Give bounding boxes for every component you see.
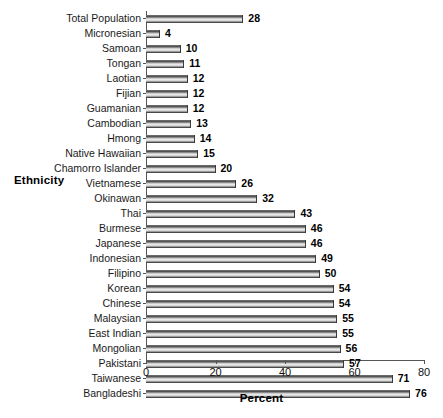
bar-value-label: 11 xyxy=(189,56,200,71)
bar xyxy=(146,150,198,158)
bar xyxy=(146,180,236,188)
bar-value-label: 10 xyxy=(186,41,198,56)
bar xyxy=(146,345,341,353)
x-axis-tick-label: 80 xyxy=(418,366,430,378)
bar xyxy=(146,15,243,23)
x-axis-tick xyxy=(216,360,217,364)
bar-row: Micronesian4 xyxy=(146,26,424,41)
bar-value-label: 54 xyxy=(339,296,351,311)
bar-value-label: 12 xyxy=(193,101,205,116)
category-label: Native Hawaiian xyxy=(65,146,141,161)
category-label: Thai xyxy=(121,206,141,221)
bar-row: Vietnamese26 xyxy=(146,176,424,191)
bar-value-label: 32 xyxy=(262,191,274,206)
bar-value-label: 20 xyxy=(221,161,233,176)
bar-value-label: 12 xyxy=(193,71,205,86)
y-axis-title: Ethnicity xyxy=(14,174,64,186)
bar xyxy=(146,195,257,203)
category-label: Micronesian xyxy=(84,26,141,41)
category-label: Korean xyxy=(107,281,141,296)
category-label: Japanese xyxy=(95,236,141,251)
x-axis-tick-label: 20 xyxy=(209,366,221,378)
bar-row: East Indian55 xyxy=(146,326,424,341)
category-label: Filipino xyxy=(108,266,141,281)
bar-value-label: 26 xyxy=(241,176,253,191)
plot-area: Total Population28Micronesian4Samoan10To… xyxy=(146,11,424,359)
bar xyxy=(146,315,337,323)
bar-value-label: 71 xyxy=(398,371,410,386)
x-axis-tick-label: 40 xyxy=(279,366,291,378)
bar-row: Korean54 xyxy=(146,281,424,296)
bar-value-label: 46 xyxy=(311,221,323,236)
bar-row: Cambodian13 xyxy=(146,116,424,131)
bar xyxy=(146,255,316,263)
bar-chart: Total Population28Micronesian4Samoan10To… xyxy=(0,0,443,418)
bar xyxy=(146,75,188,83)
bar-value-label: 55 xyxy=(342,326,354,341)
bar-value-label: 12 xyxy=(193,86,205,101)
bar xyxy=(146,90,188,98)
bar-row: Samoan10 xyxy=(146,41,424,56)
bar xyxy=(146,270,320,278)
bar xyxy=(146,45,181,53)
bar-value-label: 50 xyxy=(325,266,337,281)
bar-value-label: 55 xyxy=(342,311,354,326)
category-label: Cambodian xyxy=(87,116,141,131)
category-label: East Indian xyxy=(88,326,141,341)
bar-row: Okinawan32 xyxy=(146,191,424,206)
bar-value-label: 46 xyxy=(311,236,323,251)
category-label: Chamorro Islander xyxy=(54,161,141,176)
bar-row: Guamanian12 xyxy=(146,101,424,116)
bar-row: Thai43 xyxy=(146,206,424,221)
category-label: Pakistani xyxy=(98,356,141,371)
category-label: Okinawan xyxy=(94,191,141,206)
bar-value-label: 54 xyxy=(339,281,351,296)
category-label: Tongan xyxy=(107,56,141,71)
bar xyxy=(146,165,216,173)
category-label: Chinese xyxy=(102,296,141,311)
x-axis-tick-label: 0 xyxy=(143,366,149,378)
category-label: Laotian xyxy=(107,71,141,86)
bar xyxy=(146,285,334,293)
x-axis-tick xyxy=(355,360,356,364)
bar xyxy=(146,300,334,308)
category-label: Samoan xyxy=(102,41,141,56)
bar-value-label: 43 xyxy=(300,206,312,221)
bar-row: Tongan11 xyxy=(146,56,424,71)
category-label: Malaysian xyxy=(94,311,141,326)
bar-row: Hmong14 xyxy=(146,131,424,146)
bar xyxy=(146,240,306,248)
category-label: Taiwanese xyxy=(91,371,141,386)
bar-value-label: 49 xyxy=(321,251,333,266)
bar xyxy=(146,225,306,233)
category-label: Mongolian xyxy=(93,341,141,356)
bar-row: Chinese54 xyxy=(146,296,424,311)
bar-value-label: 56 xyxy=(346,341,358,356)
bar-row: Laotian12 xyxy=(146,71,424,86)
bar-row: Chamorro Islander20 xyxy=(146,161,424,176)
bar xyxy=(146,105,188,113)
bar-row: Indonesian49 xyxy=(146,251,424,266)
bar-row: Mongolian56 xyxy=(146,341,424,356)
bar-row: Malaysian55 xyxy=(146,311,424,326)
bar xyxy=(146,120,191,128)
category-label: Hmong xyxy=(107,131,141,146)
bar xyxy=(146,60,184,68)
bar-row: Filipino50 xyxy=(146,266,424,281)
bar xyxy=(146,30,160,38)
category-label: Vietnamese xyxy=(86,176,141,191)
bar-row: Japanese46 xyxy=(146,236,424,251)
bar-value-label: 28 xyxy=(248,11,260,26)
x-axis-tick xyxy=(424,360,425,364)
category-label: Burmese xyxy=(99,221,141,236)
bar xyxy=(146,360,344,368)
x-axis-tick-label: 60 xyxy=(348,366,360,378)
bar-row: Fijian12 xyxy=(146,86,424,101)
x-axis-title-text: Percent xyxy=(240,392,284,404)
x-axis-tick xyxy=(146,360,147,364)
bar-row: Total Population28 xyxy=(146,11,424,26)
bar-value-label: 14 xyxy=(200,131,212,146)
category-label: Total Population xyxy=(66,11,141,26)
bar-value-label: 13 xyxy=(196,116,208,131)
bar-value-label: 15 xyxy=(203,146,215,161)
